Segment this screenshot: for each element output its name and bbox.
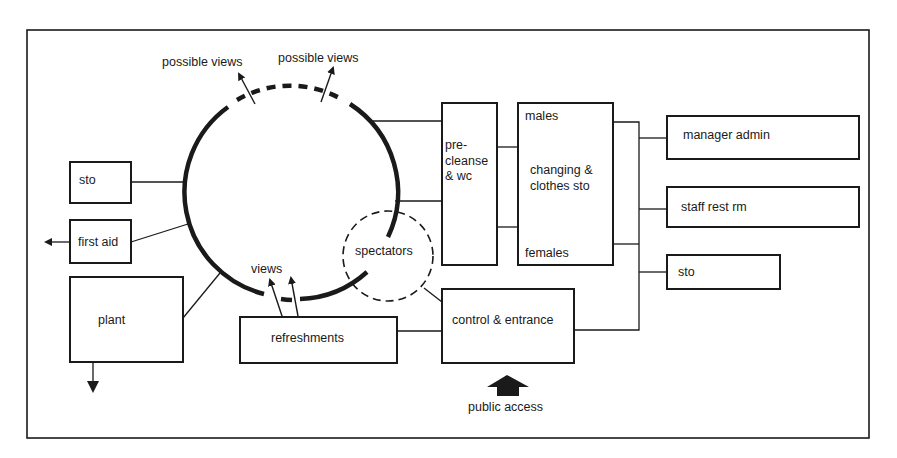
label-pre-cleanse-3: & wc xyxy=(445,169,472,183)
label-control-entrance: control & entrance xyxy=(452,313,553,327)
label-spectators: spectators xyxy=(355,244,413,258)
label-refreshments: refreshments xyxy=(271,331,344,345)
public-access-arrow-icon xyxy=(487,375,529,396)
label-pre-cleanse-2: cleanse xyxy=(445,154,488,168)
box-plant xyxy=(70,277,183,362)
possible-views-arrow-right xyxy=(321,68,333,102)
pool-circle xyxy=(184,86,398,300)
label-changing-2: clothes sto xyxy=(530,179,590,193)
label-possible-views-right: possible views xyxy=(278,51,359,65)
label-public-access: public access xyxy=(468,400,543,414)
label-views: views xyxy=(251,262,282,276)
label-males: males xyxy=(525,109,558,123)
plant-down-arrow-icon xyxy=(87,381,99,393)
box-pre-cleanse xyxy=(442,103,497,265)
label-possible-views-left: possible views xyxy=(162,55,243,69)
label-staff-rest: staff rest rm xyxy=(681,200,747,214)
label-pre-cleanse-1: pre- xyxy=(445,138,467,152)
label-sto-right: sto xyxy=(678,265,695,279)
label-first-aid: first aid xyxy=(78,235,118,249)
label-plant: plant xyxy=(98,313,125,327)
label-changing-1: changing & xyxy=(530,163,593,177)
label-sto-left: sto xyxy=(79,173,96,187)
label-manager-admin: manager admin xyxy=(683,128,770,142)
label-females: females xyxy=(525,246,569,260)
diagram-canvas xyxy=(0,0,897,458)
